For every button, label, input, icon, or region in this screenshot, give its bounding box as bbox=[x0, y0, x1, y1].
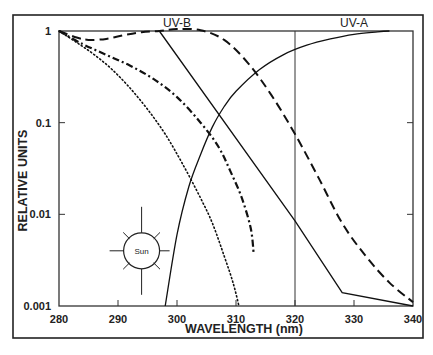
y-axis-label: RELATIVE UNITS bbox=[16, 130, 30, 232]
x-tick-label: 290 bbox=[109, 313, 127, 325]
series-solid-rising bbox=[165, 31, 389, 306]
band-label-uv-a: UV-A bbox=[340, 16, 368, 30]
band-label-uv-b: UV-B bbox=[163, 16, 191, 30]
plot-axes bbox=[59, 31, 413, 306]
x-tick-label: 280 bbox=[50, 313, 68, 325]
outer-frame bbox=[13, 15, 423, 338]
data-series bbox=[59, 29, 413, 306]
y-tick-label: 0.1 bbox=[36, 117, 51, 129]
sun-icon: Sun bbox=[110, 207, 170, 295]
x-tick-label: 330 bbox=[345, 313, 363, 325]
x-axis-label: WAVELENGTH (nm) bbox=[185, 322, 303, 336]
sun-label: Sun bbox=[134, 247, 148, 256]
y-tick-label: 1 bbox=[45, 25, 51, 37]
uv-spectrum-chart: 28029030031032033034010.10.010.001 UV-BU… bbox=[0, 0, 433, 355]
plot-area-border bbox=[59, 31, 413, 306]
axis-ticks: 28029030031032033034010.10.010.001 bbox=[23, 25, 422, 325]
series-dash-dot bbox=[59, 31, 254, 254]
annotations: UV-BUV-ASun bbox=[110, 16, 368, 295]
x-tick-label: 340 bbox=[404, 313, 422, 325]
y-tick-label: 0.01 bbox=[30, 208, 51, 220]
y-tick-label: 0.001 bbox=[23, 300, 51, 312]
series-solid-straight bbox=[159, 31, 413, 306]
x-tick-label: 300 bbox=[168, 313, 186, 325]
